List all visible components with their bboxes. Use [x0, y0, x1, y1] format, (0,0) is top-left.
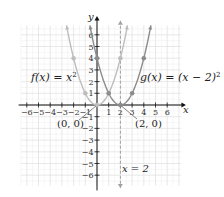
g-label-main: g(x) = (x − 2) [140, 71, 216, 84]
g-label-exp: 2 [216, 71, 220, 79]
f-point [71, 56, 76, 61]
y-tick-label: −6 [82, 171, 94, 180]
x-axis-label: x [183, 104, 189, 115]
f-point [83, 91, 88, 96]
g-point [106, 91, 111, 96]
g-function-label: g(x) = (x − 2)2 [140, 71, 221, 84]
g-point [95, 56, 100, 61]
g-point [142, 56, 147, 61]
y-tick-label: −3 [82, 136, 94, 145]
y-tick-label: 5 [88, 43, 93, 52]
y-tick-label: 4 [88, 54, 93, 63]
y-tick-label: 1 [88, 89, 93, 98]
f-label-exp: 2 [72, 71, 76, 79]
parabola-graph: −6−5−4−3−2−1123456−6−5−4−3−2−1123456 y x… [0, 0, 224, 197]
f-function-label: f(x) = x2 [30, 71, 77, 84]
arrow-up-icon [118, 21, 123, 25]
x-tick-label: 1 [106, 108, 111, 117]
x-tick-label: 6 [165, 108, 170, 117]
x-tick-label: 3 [130, 108, 135, 117]
arrow-down-icon [118, 184, 123, 188]
x-tick-label: −5 [33, 108, 45, 117]
f-point [118, 56, 123, 61]
y-tick-label: 3 [88, 66, 93, 75]
x-tick-label: 2 [118, 108, 123, 117]
x-tick-label: −4 [44, 108, 56, 117]
x-tick-label: −2 [68, 108, 80, 117]
grid [21, 25, 181, 185]
y-axis-label: y [87, 11, 94, 22]
g-point [130, 91, 135, 96]
x-tick-label: 4 [141, 108, 146, 117]
y-tick-label: −4 [82, 148, 94, 157]
y-axis-arrow-icon [95, 16, 100, 21]
x-tick-label: −3 [56, 108, 68, 117]
x-tick-label: −6 [21, 108, 33, 117]
y-tick-label: 2 [88, 78, 93, 87]
f-label-main: f(x) = x [30, 71, 73, 84]
y-tick-label: −5 [82, 160, 94, 169]
x-tick-label: 5 [153, 108, 158, 117]
shifted-vertex-label: (2, 0) [135, 118, 162, 129]
symmetry-line-label: x = 2 [122, 163, 149, 174]
